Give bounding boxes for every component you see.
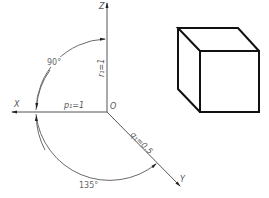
q1-coefficient-label: q₁=0.5 (129, 130, 155, 156)
oblique-axonometric-diagram: Z X Y O p₁=1 r₁=1 q₁=0.5 90° 135° (0, 0, 269, 198)
p1-coefficient-label: p₁=1 (63, 101, 84, 110)
cube-top-and-left-faces (178, 28, 259, 51)
y-axis-label: Y (180, 175, 186, 184)
cube-front-face (200, 51, 259, 112)
z-axis-label: Z (98, 2, 105, 11)
r1-coefficient-label: r₁=1 (97, 59, 106, 77)
origin-label: O (110, 102, 116, 111)
angle-135-label: 135° (79, 181, 98, 190)
cube-drawing (178, 28, 259, 112)
arc-90-degrees (36, 39, 105, 110)
arc-90-start-arrow (37, 70, 51, 108)
labels-group: Z X Y O p₁=1 r₁=1 q₁=0.5 90° 135° (13, 2, 186, 190)
axes-group (12, 3, 180, 186)
x-axis-label: X (13, 100, 20, 109)
arc-135-degrees (36, 114, 156, 180)
angle-90-label: 90° (47, 58, 61, 67)
